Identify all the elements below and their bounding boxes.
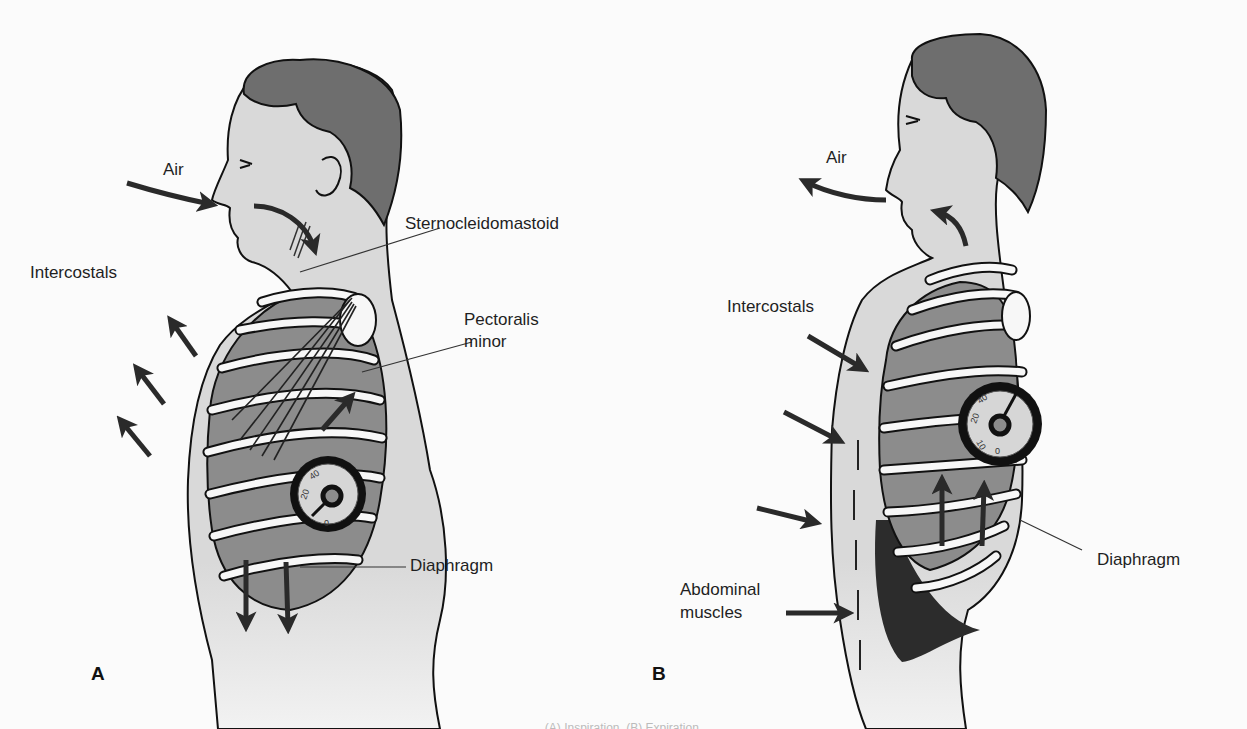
air-out-arrow <box>806 182 886 200</box>
figure-b-body: 20 40 10 0 <box>757 34 1082 729</box>
respiration-illustration: 20 40 0 <box>0 0 1247 729</box>
pressure-gauge-b: 20 40 10 0 <box>958 382 1042 466</box>
intercostal-arrow-2 <box>138 370 164 404</box>
intercostal-arrow-3 <box>122 422 150 456</box>
intercostal-arrow-b2 <box>784 412 838 440</box>
panel-label-a: A <box>91 663 105 685</box>
label-diaphragm-b: Diaphragm <box>1097 550 1180 570</box>
label-sternocleidomastoid: Sternocleidomastoid <box>405 214 559 234</box>
label-intercostals-a: Intercostals <box>30 263 117 283</box>
intercostal-arrow-b3 <box>757 508 814 522</box>
svg-text:0: 0 <box>324 518 329 528</box>
label-intercostals-b: Intercostals <box>727 297 814 317</box>
leader-lines-b <box>1020 520 1082 550</box>
diaphragm-down-arrow-2 <box>286 562 288 626</box>
label-diaphragm-a: Diaphragm <box>410 556 493 576</box>
svg-text:0: 0 <box>995 446 1000 456</box>
label-pectoralis-minor-2: minor <box>464 332 507 352</box>
pressure-gauge-a: 20 40 0 <box>290 456 366 532</box>
label-air-b: Air <box>826 148 847 168</box>
figure-caption-partial: (A) Inspiration. (B) Expiration. <box>0 715 1247 729</box>
intercostal-arrow-1 <box>172 322 196 356</box>
label-pectoralis-minor-1: Pectoralis <box>464 310 539 330</box>
label-abdominal-muscles-2: muscles <box>680 603 742 623</box>
label-air-a: Air <box>163 160 184 180</box>
panel-label-b: B <box>652 663 666 685</box>
diaphragm-up-arrow-2 <box>982 488 984 546</box>
label-abdominal-muscles-1: Abdominal <box>680 580 760 600</box>
air-in-arrow <box>127 183 210 204</box>
